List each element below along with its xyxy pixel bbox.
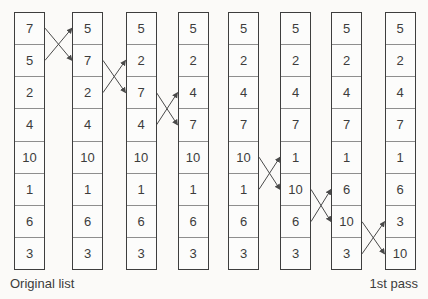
first-pass-label: 1st pass	[370, 276, 418, 291]
list-cell: 4	[15, 108, 44, 140]
list-cell: 1	[179, 173, 208, 205]
list-cell: 3	[127, 237, 156, 269]
list-cell: 4	[179, 76, 208, 108]
list-cell: 5	[179, 13, 208, 44]
list-cell: 4	[386, 76, 415, 108]
list-cell: 1	[127, 173, 156, 205]
list-column-5: 524710163	[228, 12, 259, 270]
list-cell: 1	[332, 141, 361, 173]
list-column-2: 572410163	[72, 12, 103, 270]
swap-arrow	[157, 93, 178, 125]
list-cell: 3	[179, 237, 208, 269]
list-column-8: 524716310	[385, 12, 416, 270]
list-cell: 5	[73, 13, 102, 44]
list-cell: 6	[229, 205, 258, 237]
list-cell: 7	[73, 44, 102, 76]
original-list-label: Original list	[10, 276, 74, 291]
list-cell: 2	[332, 44, 361, 76]
list-cell: 2	[229, 44, 258, 76]
bubble-sort-first-pass-diagram: Original list 1st pass 75241016357241016…	[0, 0, 428, 299]
list-column-3: 527410163	[126, 12, 157, 270]
list-cell: 6	[73, 205, 102, 237]
list-cell: 5	[229, 13, 258, 44]
list-cell: 5	[281, 13, 310, 44]
list-cell: 10	[332, 205, 361, 237]
list-cell: 2	[127, 44, 156, 76]
list-cell: 6	[332, 173, 361, 205]
list-cell: 3	[229, 237, 258, 269]
list-cell: 2	[73, 76, 102, 108]
list-cell: 5	[332, 13, 361, 44]
list-cell: 6	[386, 173, 415, 205]
list-cell: 5	[386, 13, 415, 44]
list-cell: 1	[386, 141, 415, 173]
list-cell: 6	[281, 205, 310, 237]
list-cell: 7	[15, 13, 44, 44]
list-cell: 10	[386, 237, 415, 269]
list-cell: 1	[281, 141, 310, 173]
list-cell: 6	[179, 205, 208, 237]
swap-arrow	[259, 157, 280, 189]
swap-arrow	[45, 28, 72, 60]
list-column-7: 524716103	[331, 12, 362, 270]
list-cell: 7	[332, 108, 361, 140]
list-cell: 3	[332, 237, 361, 269]
list-cell: 2	[281, 44, 310, 76]
list-cell: 5	[127, 13, 156, 44]
list-cell: 4	[281, 76, 310, 108]
list-cell: 3	[281, 237, 310, 269]
list-cell: 10	[179, 141, 208, 173]
list-cell: 1	[229, 173, 258, 205]
list-cell: 10	[15, 141, 44, 173]
list-column-6: 524711063	[280, 12, 311, 270]
list-cell: 7	[386, 108, 415, 140]
list-column-4: 524710163	[178, 12, 209, 270]
swap-arrow	[362, 222, 385, 254]
list-cell: 7	[229, 108, 258, 140]
list-cell: 4	[229, 76, 258, 108]
swap-arrows-layer	[0, 0, 428, 299]
list-cell: 1	[73, 173, 102, 205]
swap-arrow	[311, 189, 331, 221]
list-cell: 3	[15, 237, 44, 269]
list-cell: 7	[281, 108, 310, 140]
list-cell: 1	[15, 173, 44, 205]
list-column-1: 752410163	[14, 12, 45, 270]
list-cell: 4	[332, 76, 361, 108]
list-cell: 2	[386, 44, 415, 76]
list-cell: 10	[73, 141, 102, 173]
list-cell: 10	[229, 141, 258, 173]
swap-arrow	[103, 60, 126, 92]
list-cell: 7	[179, 108, 208, 140]
list-cell: 4	[127, 108, 156, 140]
list-cell: 5	[15, 44, 44, 76]
list-cell: 7	[127, 76, 156, 108]
list-cell: 2	[179, 44, 208, 76]
list-cell: 6	[15, 205, 44, 237]
list-cell: 3	[386, 205, 415, 237]
list-cell: 6	[127, 205, 156, 237]
list-cell: 3	[73, 237, 102, 269]
list-cell: 10	[281, 173, 310, 205]
list-cell: 10	[127, 141, 156, 173]
list-cell: 4	[73, 108, 102, 140]
list-cell: 2	[15, 76, 44, 108]
